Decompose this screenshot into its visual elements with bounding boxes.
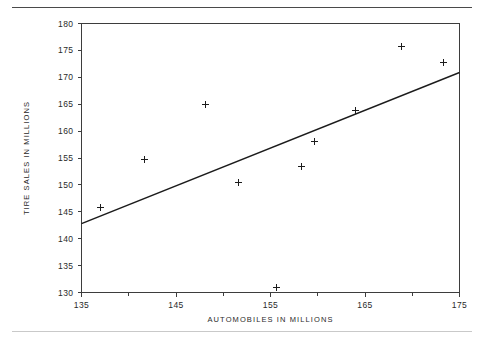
y-axis-tick-label: 130 <box>58 288 73 298</box>
y-axis-tick-label: 160 <box>58 126 73 136</box>
data-point-marker <box>202 101 209 108</box>
bottom-divider <box>12 331 472 332</box>
x-axis-tick-label: 165 <box>357 300 372 310</box>
data-point-marker <box>97 204 104 211</box>
x-axis-label: AUTOMOBILES IN MILLIONS <box>207 315 333 324</box>
x-axis-tick-label: 175 <box>452 300 467 310</box>
data-point-marker <box>440 59 447 66</box>
y-axis-tick-label: 155 <box>58 153 73 163</box>
plot-canvas: 1301351401451501551601651701751801351451… <box>0 0 484 339</box>
regression-line <box>82 72 460 223</box>
y-axis-tick-label: 180 <box>58 19 73 29</box>
x-axis-tick-label: 155 <box>263 300 278 310</box>
chart-page: 1301351401451501551601651701751801351451… <box>0 0 484 339</box>
y-axis-tick-label: 135 <box>58 261 73 271</box>
y-axis-tick-label: 170 <box>58 72 73 82</box>
data-point-marker <box>398 43 405 50</box>
y-axis-tick-label: 145 <box>58 207 73 217</box>
x-axis-tick-label: 135 <box>74 300 89 310</box>
y-axis-tick-label: 150 <box>58 180 73 190</box>
y-axis-tick-label: 165 <box>58 99 73 109</box>
data-point-marker <box>311 138 318 145</box>
y-axis-label: TIRE SALES IN MILLIONS <box>22 101 31 215</box>
data-point-marker <box>141 156 148 163</box>
y-axis-tick-label: 140 <box>58 234 73 244</box>
data-point-marker <box>298 163 305 170</box>
scatter-plot-figure: 1301351401451501551601651701751801351451… <box>0 0 484 339</box>
data-point-marker <box>273 284 280 291</box>
data-point-group <box>97 43 447 291</box>
data-point-marker <box>235 179 242 186</box>
x-axis-tick-label: 145 <box>168 300 183 310</box>
y-axis-tick-label: 175 <box>58 45 73 55</box>
